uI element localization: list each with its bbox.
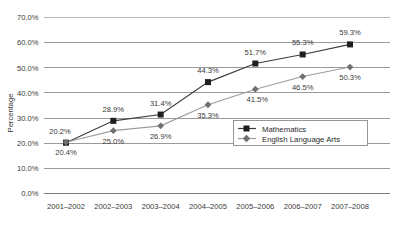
data-label: 44.3% [197, 66, 219, 75]
data-label: 35.3% [197, 111, 219, 120]
data-point-marker [205, 101, 212, 108]
data-point-marker [252, 86, 259, 93]
data-point-marker [205, 79, 211, 85]
data-label: 50.3% [339, 73, 361, 82]
data-label: 41.5% [247, 95, 269, 104]
x-tick-label: 2005–2006 [236, 202, 274, 211]
y-tick-label: 30.0% [17, 114, 39, 123]
data-point-marker [158, 112, 164, 118]
y-axis-title: Percentage [6, 94, 15, 133]
y-tick-label: 60.0% [17, 38, 39, 47]
x-tick-label: 2001–2002 [47, 202, 85, 211]
data-label: 46.5% [292, 83, 314, 92]
line-chart: 0.0%10.0%20.0%30.0%40.0%50.0%60.0%70.0% … [0, 0, 402, 226]
x-tick-label: 2004–2005 [189, 202, 227, 211]
data-label: 59.3% [339, 28, 361, 37]
chart-container: 0.0%10.0%20.0%30.0%40.0%50.0%60.0%70.0% … [0, 0, 402, 226]
y-tick-label: 20.0% [17, 139, 39, 148]
x-axis-tick-labels: 2001–20022002–20032003–20042004–20052005… [47, 202, 369, 211]
data-label: 20.4% [55, 148, 77, 157]
y-tick-label: 70.0% [17, 13, 39, 22]
x-tick-label: 2006–2007 [284, 202, 322, 211]
x-tick-label: 2002–2003 [94, 202, 132, 211]
data-point-marker [252, 61, 258, 67]
data-point-marker [299, 73, 306, 80]
x-tick-label: 2003–2004 [142, 202, 180, 211]
y-axis-tick-labels: 0.0%10.0%20.0%30.0%40.0%50.0%60.0%70.0% [17, 13, 39, 198]
square-marker-icon [244, 126, 250, 132]
data-label: 26.9% [150, 132, 172, 141]
data-point-marker [347, 41, 353, 47]
data-label: 25.0% [103, 137, 125, 146]
y-tick-label: 0.0% [21, 189, 39, 198]
chart-legend: Mathematics English Language Arts [234, 121, 368, 146]
legend-label-mathematics: Mathematics [262, 125, 306, 134]
legend-label-english-language-arts: English Language Arts [262, 135, 340, 144]
data-point-marker [110, 127, 117, 134]
data-label: 31.4% [150, 99, 172, 108]
x-tick-label: 2007–2008 [331, 202, 369, 211]
data-point-marker [300, 51, 306, 57]
y-tick-label: 50.0% [17, 64, 39, 73]
data-label: 51.7% [245, 48, 267, 57]
gridlines [44, 18, 391, 194]
data-label: 20.2% [49, 127, 71, 136]
data-label: 28.9% [103, 105, 125, 114]
data-point-marker [110, 118, 116, 124]
y-tick-label: 10.0% [17, 164, 39, 173]
data-point-marker [347, 64, 354, 71]
data-label: 55.3% [292, 38, 314, 47]
data-point-marker [157, 122, 164, 129]
y-tick-label: 40.0% [17, 89, 39, 98]
